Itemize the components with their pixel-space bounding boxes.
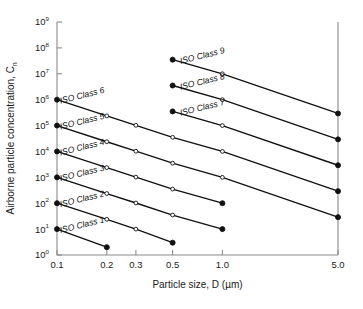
data-point — [171, 187, 175, 191]
data-point-endpoint — [220, 227, 225, 232]
x-tick-label: 0.5 — [166, 259, 179, 270]
data-point — [105, 166, 109, 170]
data-point-endpoint — [336, 137, 341, 142]
chart-container: 100101102103104105106107108109 0.10.20.3… — [0, 0, 363, 309]
data-point-endpoint — [170, 57, 175, 62]
x-tick-label: 5.0 — [331, 259, 344, 270]
data-point — [171, 161, 175, 165]
data-point-endpoint — [220, 201, 225, 206]
data-point-endpoint — [336, 189, 341, 194]
data-point — [171, 135, 175, 139]
x-tick-label: 0.3 — [129, 259, 142, 270]
data-point-endpoint — [170, 83, 175, 88]
data-point-endpoint — [104, 245, 109, 250]
data-point — [171, 213, 175, 217]
data-point — [105, 217, 109, 221]
x-axis-title: Particle size, D (µm) — [152, 279, 242, 290]
data-point — [105, 192, 109, 196]
data-point-endpoint — [336, 111, 341, 116]
data-point-endpoint — [170, 240, 175, 245]
data-point — [134, 227, 138, 231]
data-point — [220, 175, 224, 179]
x-tick-label: 1.0 — [216, 259, 229, 270]
data-point — [134, 123, 138, 127]
data-point — [134, 149, 138, 153]
data-point — [134, 175, 138, 179]
data-point-endpoint — [336, 163, 341, 168]
data-point-endpoint — [336, 215, 341, 220]
data-point-endpoint — [170, 109, 175, 114]
data-point — [220, 150, 224, 154]
data-point — [105, 140, 109, 144]
data-point — [134, 201, 138, 205]
data-point — [220, 124, 224, 128]
x-tick-label: 0.1 — [50, 259, 63, 270]
data-point — [105, 114, 109, 118]
iso-class-log-log-chart: 100101102103104105106107108109 0.10.20.3… — [0, 0, 363, 309]
x-tick-label: 0.2 — [100, 259, 113, 270]
